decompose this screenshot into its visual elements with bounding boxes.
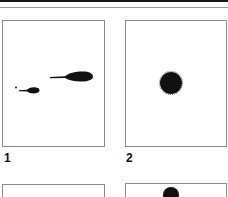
top-rule-thick bbox=[0, 0, 228, 2]
panel-3 bbox=[2, 184, 105, 197]
panel-1-label: 1 bbox=[4, 152, 11, 164]
top-rule-thin bbox=[0, 7, 228, 8]
round-spot-graphic bbox=[126, 21, 227, 147]
panel-2 bbox=[125, 20, 227, 147]
top-spot-graphic bbox=[126, 184, 227, 197]
panel-1 bbox=[2, 20, 105, 147]
panel-4 bbox=[125, 183, 227, 197]
comet-spots-graphic bbox=[3, 21, 105, 147]
panel-2-label: 2 bbox=[126, 152, 133, 164]
